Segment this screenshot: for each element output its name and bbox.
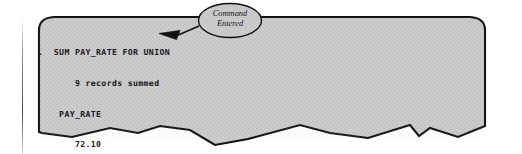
terminal-line-column-header: PAY_RATE xyxy=(38,109,170,119)
terminal-screen-figure: . SUM PAY_RATE FOR UNION 9 records summe… xyxy=(0,0,522,154)
callout-label-line-1: Command xyxy=(199,9,261,19)
terminal-line-record-count: 9 records summed xyxy=(38,78,170,88)
terminal-line-command: . SUM PAY_RATE FOR UNION xyxy=(38,47,170,57)
terminal-line-column-value: 72.10 xyxy=(38,139,170,149)
terminal-transcript: . SUM PAY_RATE FOR UNION 9 records summe… xyxy=(38,27,170,154)
callout-label: Command Entered xyxy=(199,9,261,30)
callout-label-line-2: Entered xyxy=(199,19,261,29)
